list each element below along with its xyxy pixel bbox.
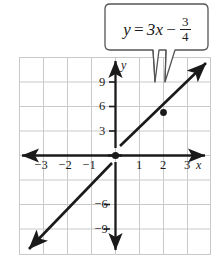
point-y-intercept: [112, 152, 119, 159]
coordinate-graph-figure: y = 3x − 3 4 y x −3 −2 −1 1 2 3 9 6 3 −6…: [0, 0, 215, 261]
x-axis-label: x: [196, 158, 201, 173]
y-axis-label: y: [121, 58, 126, 73]
y-tick-label-9: 9: [95, 75, 109, 90]
y-tick-label--6: −6: [90, 197, 112, 212]
x-tick-label-2: 2: [154, 158, 172, 173]
x-tick-label--1: −1: [78, 158, 100, 173]
x-tick-label--3: −3: [30, 158, 52, 173]
y-tick-label--9: −9: [90, 222, 112, 237]
y-tick-label-6: 6: [95, 99, 109, 114]
point-on-line: [160, 109, 167, 116]
y-tick-label-3: 3: [95, 124, 109, 139]
x-tick-label--2: −2: [54, 158, 76, 173]
x-tick-label-1: 1: [130, 158, 148, 173]
x-tick-label-3: 3: [178, 158, 196, 173]
